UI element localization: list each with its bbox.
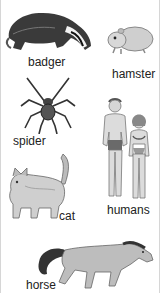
cat-label: cat <box>59 210 75 222</box>
spider-label: spider <box>13 135 46 147</box>
humans-illustration <box>95 96 159 204</box>
horse-label: horse <box>26 279 56 291</box>
badger-illustration <box>5 8 93 56</box>
hamster-label: hamster <box>112 68 155 80</box>
spider-illustration <box>19 76 77 134</box>
badger-label: badger <box>28 56 65 68</box>
animal-illustration-panel: badger hamster spider huma <box>0 0 160 293</box>
hamster-illustration <box>107 22 155 56</box>
humans-label: humans <box>107 204 150 216</box>
